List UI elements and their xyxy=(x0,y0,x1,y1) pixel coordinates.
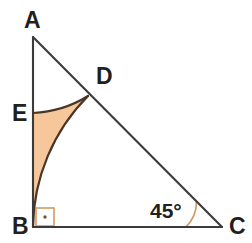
vertex-label-a: A xyxy=(24,7,41,33)
vertex-label-e: E xyxy=(12,100,27,126)
angle-measure-label: 45° xyxy=(150,199,182,222)
vertex-label-b: B xyxy=(12,213,29,239)
geometry-figure: A B C D E 45° xyxy=(0,0,252,243)
angle-arc-c xyxy=(186,202,197,228)
right-angle-marker xyxy=(36,208,54,226)
right-angle-dot xyxy=(43,215,46,218)
hypotenuse-ac xyxy=(33,37,222,227)
vertex-label-c: C xyxy=(229,213,246,239)
vertex-label-d: D xyxy=(96,63,113,89)
geometry-canvas: A B C D E 45° xyxy=(0,0,252,243)
